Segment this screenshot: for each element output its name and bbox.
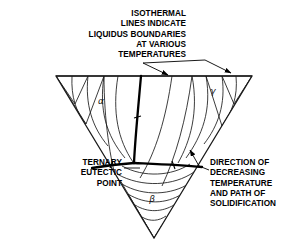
gamma-isotherm-1 [222, 76, 236, 126]
alpha-isotherm-1 [72, 76, 86, 124]
eutectic-valley-lines [92, 76, 202, 168]
figure-canvas: α γ β ISOTHERMAL LINES INDICATE LIQUIDUS… [0, 0, 306, 248]
gamma-corner-lines [206, 76, 252, 126]
leader-isothermal-arrow-left [143, 63, 168, 75]
gamma-corner-edge-2 [206, 76, 222, 126]
gamma-phase-label: γ [210, 86, 216, 96]
isothermal-annotation: ISOTHERMAL LINES INDICATE LIQUIDUS BOUND… [8, 9, 186, 60]
beta-isotherm-6 [142, 216, 166, 220]
beta-corner-lines [120, 178, 192, 238]
leader-direction-arrow [190, 150, 199, 166]
leader-isothermal-arrow-right [205, 60, 231, 73]
beta-isotherm-3 [122, 183, 190, 193]
sweep-line-right [162, 76, 192, 186]
beta-phase-label: β [148, 194, 155, 204]
direction-annotation: DIRECTION OF DECREASING TEMPERATURE AND … [210, 158, 306, 209]
alpha-corner-edge-4 [75, 76, 88, 104]
beta-isotherm-5 [135, 205, 174, 211]
alpha-isotherm-lines [72, 76, 133, 162]
valley-alpha-gamma [134, 76, 141, 163]
ternary-eutectic-annotation: TERNARY EUTECTIC POINT [32, 158, 122, 189]
beta-isotherm-lines [117, 164, 194, 220]
gamma-isotherm-4 [178, 76, 194, 163]
beta-isotherm-4 [128, 194, 182, 202]
gamma-isotherm-3 [186, 76, 208, 158]
alpha-phase-label: α [98, 96, 104, 106]
gamma-corner-edge-4 [222, 76, 234, 104]
valley-beta-gamma [134, 163, 202, 167]
liquidus-surfaces-group [56, 76, 252, 238]
